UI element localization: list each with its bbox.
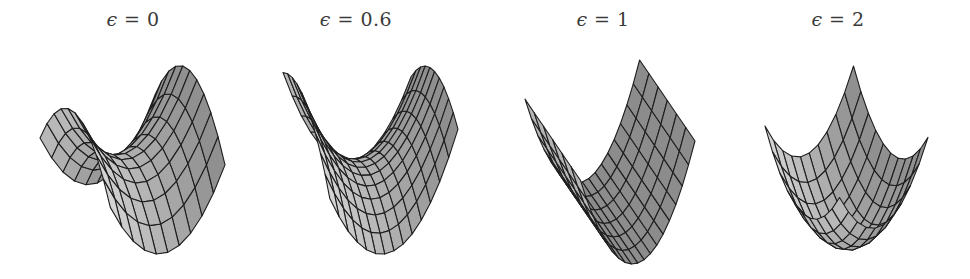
wireframe-surface-parabolic-cylinder (515, 0, 705, 279)
panel-epsilon-2: ϵ = 2 (755, 0, 938, 279)
mesh-face (525, 99, 541, 132)
panel-epsilon-0: ϵ = 0 (30, 0, 235, 279)
panel-epsilon-0-6: ϵ = 0.6 (273, 0, 468, 279)
panel-epsilon-1: ϵ = 1 (515, 0, 705, 279)
wireframe-surface-saddle (30, 0, 235, 279)
wireframe-surface-twisted-saddle (273, 0, 468, 279)
wireframe-surface-bowl (755, 0, 938, 279)
